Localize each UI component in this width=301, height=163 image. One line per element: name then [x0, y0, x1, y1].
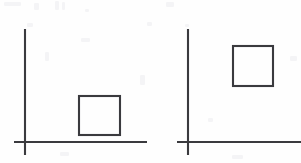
figure-canvas: Left panel shows a square resting near t… [0, 0, 301, 163]
right-panel [177, 29, 301, 155]
diagram-svg [0, 0, 301, 163]
square-high [233, 46, 273, 86]
left-panel [14, 29, 147, 155]
square-low [79, 96, 120, 135]
